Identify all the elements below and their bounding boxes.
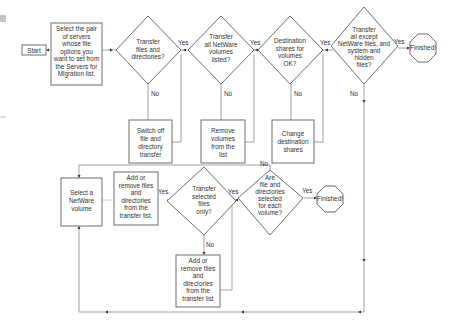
- svg-text:Remove: Remove: [211, 127, 235, 134]
- svg-text:Transfer: Transfer: [192, 185, 216, 192]
- svg-text:file and: file and: [140, 135, 161, 142]
- no-label: No: [260, 160, 269, 167]
- svg-text:NetWare files, and: NetWare files, and: [338, 40, 391, 47]
- svg-text:Switch off: Switch off: [137, 127, 165, 134]
- svg-text:directory: directory: [138, 143, 163, 151]
- svg-text:NetWare: NetWare: [69, 197, 94, 204]
- yes-label: Yes: [320, 39, 330, 46]
- decision-exclude-system-files: Transfer all except NetWare files, and s…: [331, 7, 398, 84]
- svg-text:Finished!: Finished!: [410, 44, 436, 51]
- svg-text:the Servers for: the Servers for: [56, 63, 99, 70]
- svg-text:Destination: Destination: [274, 37, 306, 44]
- no-label: No: [294, 90, 303, 97]
- switch-off-transfer-step: Switch off file and directory transfer: [129, 120, 172, 163]
- select-server-pair-step: Select the pair of servers whose file op…: [51, 23, 102, 85]
- select-volume-step: Select a NetWare volume: [61, 178, 102, 226]
- svg-text:Select a: Select a: [70, 189, 94, 196]
- no-label: No: [224, 90, 233, 97]
- svg-text:transfer list: transfer list: [182, 295, 213, 302]
- svg-text:volumes: volumes: [211, 135, 235, 142]
- svg-text:from the: from the: [186, 287, 210, 294]
- svg-text:for each: for each: [258, 202, 282, 209]
- svg-text:list: list: [219, 151, 227, 158]
- no-label: No: [350, 90, 359, 97]
- flowchart: Yes Yes Yes Yes No No No No Yes Yes Yes …: [0, 0, 451, 334]
- start-node: Start: [22, 45, 46, 55]
- svg-text:shares: shares: [283, 146, 302, 153]
- svg-text:selected: selected: [258, 195, 282, 202]
- change-destination-shares-step: Change destination shares: [272, 120, 314, 163]
- svg-text:hidden: hidden: [354, 54, 374, 61]
- decision-selected-files-only: Transfer selected files only?: [167, 167, 236, 235]
- svg-text:remove files: remove files: [119, 182, 153, 189]
- svg-text:directories?: directories?: [131, 53, 164, 60]
- svg-text:Transfer: Transfer: [136, 38, 160, 45]
- svg-text:Change: Change: [282, 130, 305, 138]
- no-label: No: [151, 90, 160, 97]
- svg-text:selected: selected: [192, 193, 216, 200]
- yes-label: Yes: [158, 188, 168, 195]
- add-remove-files-step-2: Add or remove files and directories from…: [176, 255, 220, 307]
- decision-transfer-files: Transfer files and directories?: [116, 16, 181, 84]
- no-label: No: [206, 241, 215, 248]
- svg-text:shares for: shares for: [276, 45, 305, 52]
- svg-text:Add or: Add or: [189, 257, 209, 264]
- svg-text:whose file: whose file: [61, 40, 91, 47]
- gray-marker: [0, 15, 6, 22]
- svg-text:from the: from the: [211, 143, 235, 150]
- svg-text:want to set from: want to set from: [53, 55, 99, 62]
- svg-text:Are: Are: [265, 174, 275, 181]
- svg-text:Start: Start: [27, 47, 41, 54]
- svg-text:Transfer: Transfer: [209, 33, 233, 40]
- svg-text:OK?: OK?: [284, 60, 297, 67]
- svg-text:volume?: volume?: [258, 209, 283, 216]
- decision-transfer-volumes: Transfer all NetWare volumes listed?: [188, 16, 254, 84]
- svg-text:and: and: [131, 189, 142, 196]
- svg-text:volumes: volumes: [278, 52, 302, 59]
- svg-text:volumes: volumes: [209, 48, 233, 55]
- svg-text:Transfer: Transfer: [352, 26, 376, 33]
- svg-text:of servers: of servers: [62, 33, 90, 40]
- svg-text:files?: files?: [357, 61, 372, 68]
- svg-text:Migration list.: Migration list.: [58, 70, 96, 78]
- svg-text:Finished!: Finished!: [317, 195, 343, 202]
- yes-label: Yes: [250, 39, 260, 46]
- svg-text:remove files: remove files: [181, 265, 215, 272]
- yes-label: Yes: [302, 187, 312, 194]
- remove-volumes-step: Remove volumes from the list: [201, 120, 245, 163]
- svg-text:files: files: [198, 200, 209, 207]
- svg-text:directories: directories: [255, 188, 284, 195]
- yes-label: Yes: [178, 39, 188, 46]
- svg-text:listed?: listed?: [212, 56, 231, 63]
- finished-terminal-2: Finished!: [317, 186, 343, 212]
- svg-text:transfer list.: transfer list.: [119, 212, 152, 219]
- add-remove-files-step-1: Add or remove files and directories from…: [114, 172, 158, 225]
- decision-each-volume-selected: Are file and directories selected for ea…: [238, 170, 303, 235]
- svg-text:directories: directories: [183, 280, 212, 287]
- svg-text:transfer: transfer: [140, 151, 163, 158]
- svg-text:files and: files and: [136, 46, 160, 53]
- svg-text:all NetWare: all NetWare: [204, 41, 238, 48]
- svg-text:file and: file and: [260, 181, 281, 188]
- finished-terminal-1: Finished!: [410, 34, 436, 62]
- svg-text:and: and: [193, 272, 204, 279]
- decision-destination-shares: Destination shares for volumes OK?: [258, 16, 323, 84]
- svg-text:from the: from the: [124, 204, 148, 211]
- svg-text:destination: destination: [278, 138, 309, 145]
- svg-text:volume: volume: [71, 205, 92, 212]
- svg-text:directories: directories: [121, 197, 150, 204]
- svg-text:only?: only?: [196, 208, 212, 216]
- svg-text:Add or: Add or: [127, 174, 147, 181]
